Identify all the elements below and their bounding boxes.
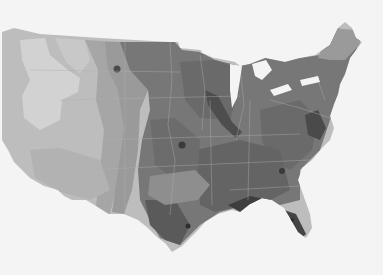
us-map [0, 0, 383, 275]
